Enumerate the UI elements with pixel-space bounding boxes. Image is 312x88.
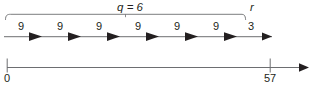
number-line-axis <box>7 59 309 73</box>
remainder-label: r <box>250 2 254 14</box>
jump-arrowhead <box>29 32 42 41</box>
jump-label: 9 <box>135 21 141 32</box>
quotient-brace <box>6 14 246 19</box>
remainder-arrowhead <box>262 33 272 41</box>
quotient-label: q = 6 <box>117 2 143 14</box>
jump-arrows <box>4 32 272 41</box>
jump-label: 9 <box>213 21 219 32</box>
jump-label: 9 <box>57 21 63 32</box>
jump-arrowhead <box>68 32 81 41</box>
axis-label-start: 0 <box>4 73 10 84</box>
jump-label: 9 <box>18 21 24 32</box>
jump-arrowhead <box>224 32 237 41</box>
jump-arrowhead <box>107 32 120 41</box>
jump-arrowhead <box>185 32 198 41</box>
jump-label: 9 <box>96 21 102 32</box>
jump-label: 9 <box>174 21 180 32</box>
axis-label-end: 57 <box>264 73 276 84</box>
remainder-jump-label: 3 <box>248 21 254 32</box>
axis-arrowhead <box>299 63 309 71</box>
figure-canvas: q = 6 r 9 9 9 9 9 9 3 0 57 <box>0 0 312 88</box>
jump-arrowhead <box>146 32 159 41</box>
